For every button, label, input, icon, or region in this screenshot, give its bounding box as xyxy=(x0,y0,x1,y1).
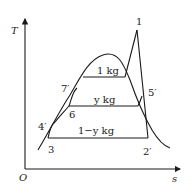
superheat-line xyxy=(125,30,137,77)
point-7-label: 7′ xyxy=(61,83,70,94)
y-axis-label: T xyxy=(11,25,19,36)
mass-label-1kg: 1 kg xyxy=(97,65,120,76)
point-3-label: 3 xyxy=(48,144,54,155)
point-1-label: 1 xyxy=(136,16,142,27)
mass-label-1-ykg: 1−y kg xyxy=(78,125,115,136)
pump-curve-4 xyxy=(48,106,69,138)
point-6-label: 6 xyxy=(69,109,75,120)
origin-label: O xyxy=(19,172,27,183)
point-5-label: 5′ xyxy=(148,87,157,98)
ts-diagram: T O s 1 2′ 3 4′ 5′ 6 7′ 1 kg y kg 1−y kg xyxy=(0,0,194,194)
mass-label-ykg: y kg xyxy=(93,94,116,105)
point-4-label: 4′ xyxy=(38,121,47,132)
point-2-label: 2′ xyxy=(143,146,152,157)
x-axis-label: s xyxy=(172,173,177,184)
expansion-line xyxy=(137,30,148,138)
